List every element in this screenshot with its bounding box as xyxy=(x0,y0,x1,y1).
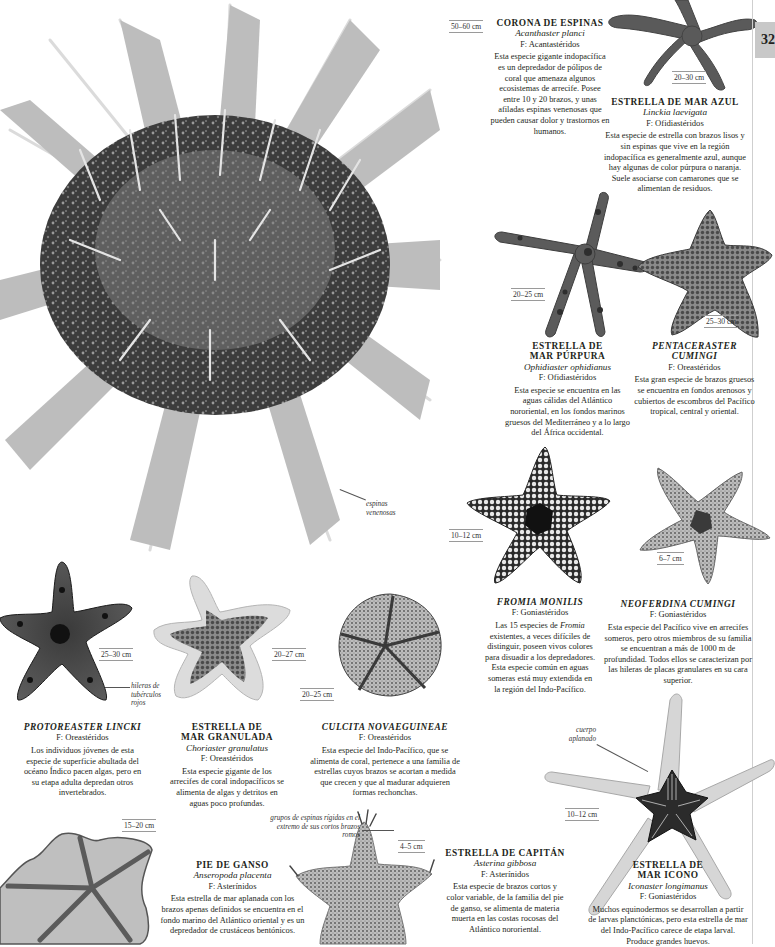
size-label: 10–12 cm xyxy=(449,529,483,542)
species-entry-estrella-de-capitan: ESTRELLA DE CAPITÁN Asterina gibbosa F: … xyxy=(445,848,565,935)
species-family: F: Acantastéridos xyxy=(490,39,610,51)
species-scientific-name: Linckia laevigata xyxy=(600,107,750,117)
species-title: PENTACERASTER CUMINGI xyxy=(632,341,757,362)
size-label: 20–25 cm xyxy=(300,688,334,701)
species-entry-culcita-novaeguineae: CULCITA NOVAEGUINEAE F: Oreastéridos Est… xyxy=(310,722,460,799)
annotation-cuerpo-aplanado: cuerpo aplanado xyxy=(560,726,596,743)
species-entry-corona-de-espinas: CORONA DE ESPINAS Acanthaster planci F: … xyxy=(490,18,610,137)
species-entry-estrella-de-mar-purpura: ESTRELLA DE MAR PÚRPURA Ophidiaster ophi… xyxy=(505,341,630,439)
fromia-monilis-image xyxy=(465,445,615,590)
size-label: 25–30 cm xyxy=(704,315,738,328)
species-title: CULCITA NOVAEGUINEAE xyxy=(310,722,460,732)
species-entry-protoreaster-lincki: PROTOREASTER LINCKI F: Oreastéridos Los … xyxy=(20,722,145,799)
species-title: ESTRELLA DE MAR PÚRPURA xyxy=(505,341,630,362)
annotation-leader-line xyxy=(105,687,130,688)
species-scientific-name: Anseropoda placenta xyxy=(160,870,305,880)
species-family: F: Goniastéridos xyxy=(485,607,595,619)
annotation-espinas-venenosas: espinas venenosas xyxy=(366,500,416,517)
species-description: Esta especie de estrella con brazos liso… xyxy=(600,131,750,195)
species-entry-estrella-de-mar-icono: ESTRELLA DE MAR ICONO Iconaster longiman… xyxy=(588,860,748,947)
species-title: ESTRELLA DE MAR AZUL xyxy=(600,97,750,107)
crown-of-thorns-image xyxy=(0,0,440,560)
neoferdina-image xyxy=(630,460,775,590)
species-description: Esta especie gigante indopacífica es un … xyxy=(490,52,610,137)
species-family: F: Oreastéridos xyxy=(632,362,757,374)
size-label: 10–12 cm xyxy=(565,808,599,821)
species-entry-pentaceraster-cumingi: PENTACERASTER CUMINGI F: Oreastéridos Es… xyxy=(632,341,757,418)
species-family: F: Goniastéridos xyxy=(588,891,748,903)
species-title: PIE DE GANSO xyxy=(160,860,305,870)
species-title: ESTRELLA DE CAPITÁN xyxy=(445,848,565,858)
species-scientific-name: Asterina gibbosa xyxy=(445,858,565,868)
species-title: ESTRELLA DE MAR ICONO xyxy=(588,860,748,881)
species-title: CORONA DE ESPINAS xyxy=(490,18,610,28)
species-entry-pie-de-ganso: PIE DE GANSO Anseropoda placenta F: Aste… xyxy=(160,860,305,937)
species-description: Esta especie del Pacífico vive en arreci… xyxy=(603,623,753,687)
culcita-novaeguineae-image xyxy=(335,590,445,700)
species-description: Esta especie gigante de los arrecifes de… xyxy=(168,767,286,809)
species-family: F: Ofidiastéridos xyxy=(505,372,630,384)
species-description: Esta estrella de mar aplanada con los br… xyxy=(160,894,305,936)
species-family: F: Goniastéridos xyxy=(603,609,753,621)
species-family: F: Oreastéridos xyxy=(168,753,286,765)
granulated-starfish-image xyxy=(150,570,300,710)
species-family: F: Oreastéridos xyxy=(310,732,460,744)
species-family: F: Asterínidos xyxy=(445,869,565,881)
species-description: Esta especie se encuentra en las aguas c… xyxy=(505,386,630,439)
species-family: F: Ofidiastéridos xyxy=(600,118,750,130)
species-scientific-name: Choriaster granulatus xyxy=(168,743,286,753)
species-description: Esta especie del Indo-Pacífico, que se a… xyxy=(310,746,460,799)
annotation-grupos-espinas: grupos de espinas rígidas en el extremo … xyxy=(258,814,360,840)
species-description: Muchos equinodermos se desarrollan a par… xyxy=(588,905,748,947)
pentaceraster-image xyxy=(630,205,775,345)
species-family: F: Asterínidos xyxy=(160,881,305,893)
species-description: Esta gran especie de brazos gruesos se e… xyxy=(632,375,757,417)
species-entry-estrella-de-mar-azul: ESTRELLA DE MAR AZUL Linckia laevigata F… xyxy=(600,97,750,195)
pie-de-ganso-image xyxy=(0,828,160,944)
species-title: ESTRELLA DE MAR GRANULADA xyxy=(168,722,286,743)
size-label: 20–25 cm xyxy=(511,288,545,301)
species-family: F: Oreastéridos xyxy=(20,732,145,744)
size-label: 25–30 cm xyxy=(99,648,133,661)
size-label: 20–30 cm xyxy=(672,71,706,84)
species-description: Las 15 especies de Fromia existentes, a … xyxy=(485,621,595,695)
page-number-tab: 32 xyxy=(755,22,775,58)
species-scientific-name: Iconaster longimanus xyxy=(588,881,748,891)
species-title: PROTOREASTER LINCKI xyxy=(20,722,145,732)
species-description: Los individuos jóvenes de esta especie d… xyxy=(20,746,145,799)
size-label: 50–60 cm xyxy=(449,20,483,33)
species-scientific-name: Ophidiaster ophidianus xyxy=(505,362,630,372)
species-title: FROMIA MONILIS xyxy=(485,597,595,607)
species-description: Esta especie de brazos cortos y color va… xyxy=(445,882,565,935)
species-entry-neoferdina-cumingi: NEOFERDINA CUMINGI F: Goniastéridos Esta… xyxy=(603,599,753,687)
purple-starfish-image xyxy=(490,192,650,342)
size-label: 15–20 cm xyxy=(122,819,156,832)
size-label: 4–5 cm xyxy=(398,840,425,853)
species-entry-estrella-de-mar-granulada: ESTRELLA DE MAR GRANULADA Choriaster gra… xyxy=(168,722,286,809)
annotation-leader-line xyxy=(362,830,394,831)
size-label: 6–7 cm xyxy=(657,552,684,565)
species-scientific-name: Acanthaster planci xyxy=(490,28,610,38)
size-label: 20–27 cm xyxy=(272,648,306,661)
species-title: NEOFERDINA CUMINGI xyxy=(603,599,753,609)
species-entry-fromia-monilis: FROMIA MONILIS F: Goniastéridos Las 15 e… xyxy=(485,597,595,695)
